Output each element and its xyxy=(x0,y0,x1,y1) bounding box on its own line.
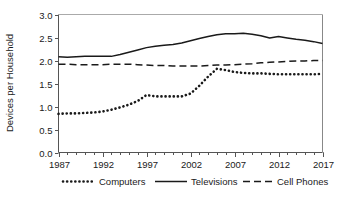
y-tick-label: 2.0 xyxy=(39,56,52,67)
chart-legend: ComputersTelevisionsCell Phones xyxy=(63,176,328,187)
line-chart: Devices per Household 0.00.51.01.52.02.5… xyxy=(0,0,342,198)
x-tick-label: 1987 xyxy=(49,159,70,170)
legend-label-computers: Computers xyxy=(99,176,146,187)
y-tick-label: 0.5 xyxy=(39,125,52,136)
x-tick-label: 1997 xyxy=(137,159,158,170)
x-tick-label: 2007 xyxy=(225,159,246,170)
x-tick-label: 2012 xyxy=(269,159,290,170)
y-tick-label: 1.5 xyxy=(39,79,52,90)
y-axis-title-label: Devices per Household xyxy=(4,34,15,132)
y-tick-label: 0.0 xyxy=(39,148,52,159)
y-tick-label: 1.0 xyxy=(39,102,52,113)
x-tick-label: 2002 xyxy=(181,159,202,170)
legend-label-televisions: Televisions xyxy=(191,176,238,187)
chart-figure: Devices per Household 0.00.51.01.52.02.5… xyxy=(0,0,342,198)
y-axis-title: Devices per Household xyxy=(4,34,15,132)
y-tick-label: 2.5 xyxy=(39,33,52,44)
x-tick-label: 2017 xyxy=(313,159,334,170)
x-tick-label: 1992 xyxy=(93,159,114,170)
y-tick-label: 3.0 xyxy=(39,10,52,21)
legend-label-cell-phones: Cell Phones xyxy=(277,176,328,187)
